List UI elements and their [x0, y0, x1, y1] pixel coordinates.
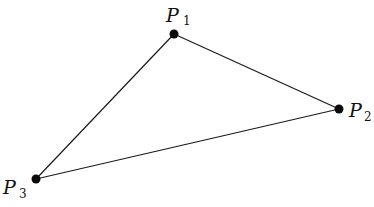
vertex-p2 [335, 105, 344, 114]
vertex-p3 [32, 175, 41, 184]
edges [36, 34, 339, 179]
edge-p2-p3 [36, 109, 339, 179]
vertex-p1 [170, 30, 179, 39]
vertices [32, 30, 344, 184]
labels: P 1 P 2 P 3 [2, 4, 372, 201]
label-p1: P [165, 4, 180, 26]
edge-p3-p1 [36, 34, 174, 179]
label-p2-subscript: 2 [364, 110, 372, 124]
triangle-diagram: P 1 P 2 P 3 [0, 0, 374, 207]
label-p3-subscript: 3 [19, 187, 27, 201]
label-p2: P [348, 99, 363, 121]
label-p1-subscript: 1 [183, 14, 191, 28]
edge-p1-p2 [174, 34, 339, 109]
label-p3: P [2, 176, 17, 198]
